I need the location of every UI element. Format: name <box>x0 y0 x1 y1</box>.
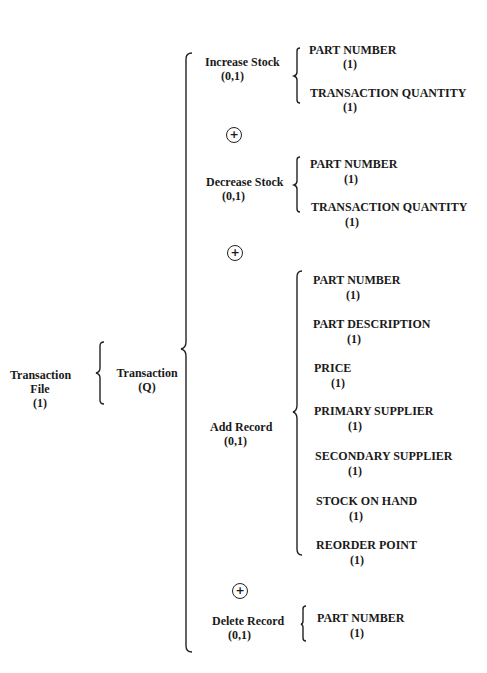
decrease-stock-label: Decrease Stock <box>206 175 283 189</box>
delete-record-cardinality: (0,1) <box>212 628 284 642</box>
add-record-node: Add Record (0,1) <box>210 420 272 448</box>
field-part-number: PART NUMBER <box>317 611 404 625</box>
root-label: Transaction File (1) <box>10 368 70 410</box>
transaction-cardinality: (Q) <box>112 380 182 394</box>
increase-stock-label: Increase Stock <box>205 55 280 69</box>
field-cardinality: (1) <box>347 332 361 346</box>
field-cardinality: (1) <box>346 288 360 302</box>
field-cardinality: (1) <box>348 464 362 478</box>
field-cardinality: (1) <box>350 626 364 640</box>
delete-record-brace <box>301 606 306 641</box>
decrease-stock-node: Decrease Stock (0,1) <box>206 175 283 203</box>
transaction-label: Transaction <box>112 366 182 380</box>
decrease-stock-brace <box>294 157 300 212</box>
field-cardinality: (1) <box>343 57 357 71</box>
field-transaction-quantity: TRANSACTION QUANTITY <box>311 200 467 214</box>
field-label: PART NUMBER <box>309 43 396 57</box>
field-cardinality: (1) <box>345 215 359 229</box>
field-secondary-supplier: SECONDARY SUPPLIER <box>315 449 452 463</box>
increase-stock-brace <box>294 48 300 103</box>
field-part-description: PART DESCRIPTION <box>313 317 431 331</box>
field-cardinality: (1) <box>350 553 364 567</box>
field-cardinality: (1) <box>348 419 362 433</box>
field-price: PRICE <box>314 361 351 375</box>
increase-stock-node: Increase Stock (0,1) <box>205 55 280 83</box>
field-cardinality: (1) <box>349 509 363 523</box>
delete-record-node: Delete Record (0,1) <box>212 614 284 642</box>
braces-layer <box>0 0 487 673</box>
xor-plus-icon: + <box>227 245 243 261</box>
field-part-number: PART NUMBER <box>313 273 400 287</box>
field-reorder-point: REORDER POINT <box>316 538 417 552</box>
increase-stock-cardinality: (0,1) <box>205 69 280 83</box>
add-record-label: Add Record <box>210 420 272 434</box>
add-record-brace <box>293 271 302 555</box>
decrease-stock-cardinality: (0,1) <box>206 189 283 203</box>
transaction-brace <box>181 53 192 652</box>
xor-plus-icon: + <box>226 127 242 143</box>
field-primary-supplier: PRIMARY SUPPLIER <box>314 404 433 418</box>
delete-record-label: Delete Record <box>212 614 284 628</box>
root-label-line2: File <box>10 382 70 396</box>
field-part-number: PART NUMBER <box>309 43 396 57</box>
add-record-cardinality: (0,1) <box>210 434 272 448</box>
transaction-node: Transaction (Q) <box>112 366 182 394</box>
root-label-line1: Transaction <box>10 368 70 382</box>
field-part-number: PART NUMBER <box>310 157 397 171</box>
field-transaction-quantity: TRANSACTION QUANTITY <box>310 86 466 100</box>
field-cardinality: (1) <box>343 100 357 114</box>
field-cardinality: (1) <box>331 376 345 390</box>
field-stock-on-hand: STOCK ON HAND <box>316 494 417 508</box>
root-cardinality: (1) <box>10 396 70 410</box>
field-cardinality: (1) <box>344 172 358 186</box>
root-brace <box>96 342 104 404</box>
xor-plus-icon: + <box>232 583 248 599</box>
